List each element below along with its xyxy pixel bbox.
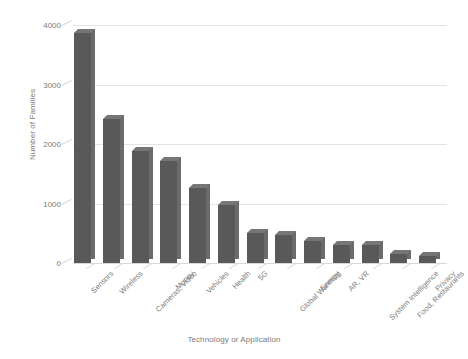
bar-front-face	[160, 161, 177, 263]
bar	[74, 33, 91, 263]
bar-side-face	[264, 229, 268, 259]
x-axis-tick-label: Energy	[318, 269, 341, 292]
bar-side-face	[321, 237, 325, 259]
x-axis-tick-label: Vehicles	[204, 269, 230, 295]
bar-top-face	[218, 201, 239, 205]
bar-front-face	[132, 151, 149, 263]
x-axis-tick-label: AR, VR	[347, 269, 371, 293]
bar	[218, 205, 235, 263]
gridline	[73, 85, 447, 86]
bar-side-face	[149, 147, 153, 259]
bar-top-face	[74, 29, 95, 33]
bar-front-face	[74, 33, 91, 263]
bar-side-face	[91, 29, 95, 259]
bar-front-face	[189, 188, 206, 263]
gridline	[73, 25, 447, 26]
plot-area: 01000200030004000SensorsWirelessCameras,…	[73, 25, 447, 263]
bar-front-face	[103, 119, 120, 263]
bar	[189, 188, 206, 263]
bar	[160, 161, 177, 263]
gridline	[73, 144, 447, 145]
bar-side-face	[206, 184, 210, 259]
x-axis-tick-label: Health	[231, 269, 253, 291]
bar-top-face	[132, 147, 153, 151]
bar-side-face	[235, 201, 239, 259]
x-axis-title: Technology or Application	[0, 335, 468, 344]
bar-side-face	[177, 157, 181, 259]
bar-side-face	[292, 231, 296, 259]
bar-front-face	[218, 205, 235, 263]
x-axis-tick-label: 5G	[256, 269, 270, 283]
y-axis-title: Number of Families	[28, 45, 37, 205]
x-axis-tick-label: Sensors	[89, 269, 115, 295]
x-axis-tick-label: Food, Restaurants	[415, 269, 466, 320]
gridline	[73, 204, 447, 205]
bar-chart: Number of Families 01000200030004000Sens…	[0, 0, 468, 359]
x-axis-tick-label: Wireless	[118, 269, 145, 296]
bar-side-face	[120, 115, 124, 259]
bar	[103, 119, 120, 263]
bar	[132, 151, 149, 263]
